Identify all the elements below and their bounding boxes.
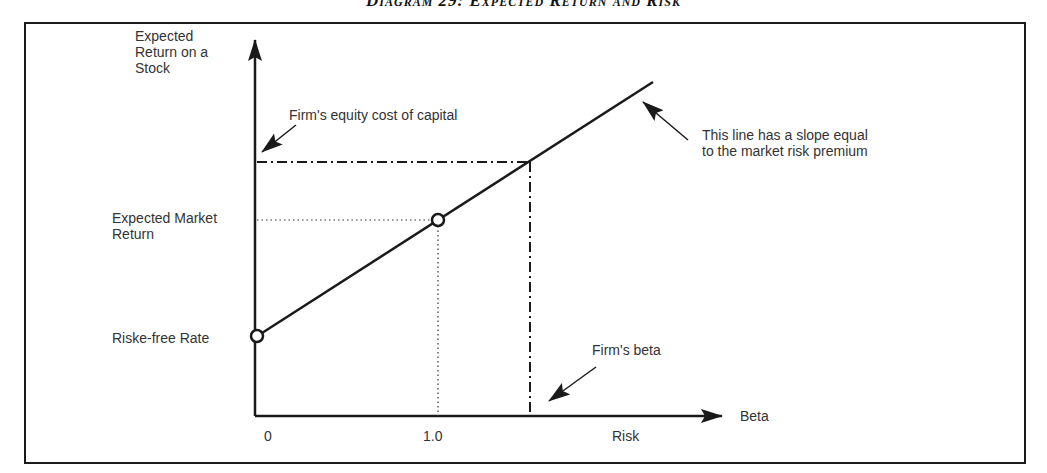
y-axis-label: Expected Return on a Stock xyxy=(135,28,208,76)
slope-note-label: This line has a slope equal to the marke… xyxy=(702,127,868,159)
x-axis-label-beta: Beta xyxy=(740,408,769,424)
firm-beta-arrow-icon xyxy=(549,367,596,401)
x-axis-label-risk: Risk xyxy=(612,428,639,444)
x-tick-0: 0 xyxy=(264,428,272,444)
equity-cost-arrow-icon xyxy=(262,125,296,152)
risk-free-point xyxy=(251,330,263,342)
equity-cost-label: Firm's equity cost of capital xyxy=(289,107,457,123)
x-tick-1: 1.0 xyxy=(423,428,442,444)
firm-beta-label: Firm's beta xyxy=(592,342,661,358)
market-point xyxy=(432,214,444,226)
slope-note-arrow-icon xyxy=(643,102,688,140)
firm-reference-lines xyxy=(257,162,530,416)
market-return-label: Expected Market Return xyxy=(112,210,217,242)
risk-free-label: Riske-free Rate xyxy=(112,330,209,346)
